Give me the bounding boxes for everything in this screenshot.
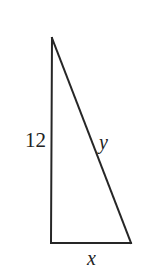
triangle-drawing xyxy=(0,0,145,275)
triangle-figure: 12 y x xyxy=(0,0,145,275)
vertical-leg-line xyxy=(51,38,52,243)
hypotenuse-line xyxy=(52,38,131,243)
horizontal-leg-label: x xyxy=(87,248,96,268)
hypotenuse-label: y xyxy=(99,132,108,152)
vertical-leg-label: 12 xyxy=(25,130,46,151)
